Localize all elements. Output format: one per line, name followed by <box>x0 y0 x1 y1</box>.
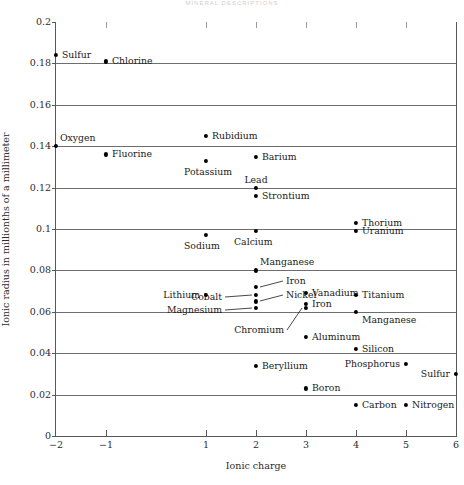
data-point-label: Vanadium <box>312 289 359 298</box>
data-point <box>104 152 108 156</box>
y-tick-mark <box>52 105 56 106</box>
data-point-label: Iron <box>312 299 332 308</box>
data-point <box>254 154 258 158</box>
y-tick-mark <box>52 270 56 271</box>
y-tick-mark <box>52 395 56 396</box>
y-tick-label: 0.1 <box>36 224 51 234</box>
data-point <box>254 186 258 190</box>
x-tick-mark <box>306 430 307 436</box>
data-point-label: Boron <box>312 384 340 393</box>
data-point-label: Sodium <box>184 241 220 250</box>
x-tick-mark-top <box>106 22 107 28</box>
x-tick-mark <box>106 430 107 436</box>
y-tick-mark <box>52 312 56 313</box>
y-tick-mark <box>52 63 56 64</box>
y-tick-mark <box>52 188 56 189</box>
x-tick-label: −2 <box>49 440 63 450</box>
data-point-label: Potassium <box>184 167 232 176</box>
data-point-label: Oxygen <box>60 133 96 142</box>
y-tick-label: 0.08 <box>30 266 51 276</box>
data-point-label: Nitrogen <box>412 400 454 409</box>
scatter-chart-figure: 00.020.040.060.080.10.120.140.160.180.2−… <box>0 0 464 485</box>
data-point-label: Rubidium <box>212 131 258 140</box>
y-tick-mark <box>52 229 56 230</box>
x-tick-mark <box>256 430 257 436</box>
x-tick-mark <box>206 430 207 436</box>
data-point <box>304 335 308 339</box>
data-point <box>254 299 258 303</box>
x-tick-label: 6 <box>453 440 459 450</box>
y-tick-label: 0.02 <box>30 390 51 400</box>
data-point-label: Calcium <box>234 237 273 246</box>
x-tick-mark-top <box>206 22 207 28</box>
data-point <box>204 159 208 163</box>
data-point <box>254 364 258 368</box>
y-tick-label: 0.16 <box>30 100 51 110</box>
y-tick-mark <box>52 22 56 23</box>
x-axis-title: Ionic charge <box>55 460 457 471</box>
y-tick-label: 0.12 <box>30 183 51 193</box>
data-point <box>354 403 358 407</box>
data-point-label: Aluminum <box>312 332 360 341</box>
y-gridline <box>56 146 456 147</box>
x-tick-mark <box>356 430 357 436</box>
data-point-label: Manganese <box>362 315 416 324</box>
y-tick-label: 0.06 <box>30 307 51 317</box>
data-point-label: Chromium <box>234 325 284 334</box>
x-tick-label: −1 <box>99 440 113 450</box>
data-point <box>354 347 358 351</box>
data-point <box>254 306 258 310</box>
data-point-label: Carbon <box>362 400 397 409</box>
y-tick-label: 0.04 <box>30 348 51 358</box>
label-leader-line <box>258 293 285 303</box>
data-point <box>454 372 458 376</box>
data-point-label: Beryllium <box>262 361 308 370</box>
data-point-label: Phosphorus <box>345 359 400 368</box>
data-point-label: Iron <box>286 276 306 285</box>
y-axis-title: Ionic radius in millionths of a millimet… <box>0 22 14 437</box>
data-point-label: Fluorine <box>112 150 152 159</box>
data-point <box>404 403 408 407</box>
x-tick-mark-top <box>356 22 357 28</box>
data-point-label: Uranium <box>362 226 404 235</box>
label-leader-line <box>258 279 285 289</box>
x-tick-mark-top <box>256 22 257 28</box>
data-point <box>254 194 258 198</box>
data-point-label: Strontium <box>262 191 310 200</box>
data-point <box>254 229 258 233</box>
data-point <box>204 134 208 138</box>
y-tick-label: 0.18 <box>30 59 51 69</box>
data-point <box>354 221 358 225</box>
x-tick-mark <box>406 430 407 436</box>
label-leader-line <box>285 306 304 332</box>
x-tick-mark-top <box>306 22 307 28</box>
y-gridline <box>56 312 456 313</box>
x-tick-label: 3 <box>303 440 309 450</box>
data-point-label: Silicon <box>362 344 394 353</box>
data-point-label: Titanium <box>362 291 404 300</box>
y-gridline <box>56 353 456 354</box>
data-point-label: Barium <box>262 152 297 161</box>
y-gridline <box>56 395 456 396</box>
data-point-label: Lithium <box>163 291 200 300</box>
data-point <box>304 306 308 310</box>
data-point <box>404 361 408 365</box>
label-leader-line <box>223 306 254 312</box>
data-point <box>54 144 58 148</box>
data-point <box>204 233 208 237</box>
data-point <box>54 53 58 57</box>
plot-area: 00.020.040.060.080.10.120.140.160.180.2−… <box>55 22 457 437</box>
data-point-label: Magnesium <box>167 305 222 314</box>
data-point <box>304 386 308 390</box>
y-tick-label: 0.14 <box>30 141 51 151</box>
x-tick-mark-top <box>406 22 407 28</box>
data-point-label: Lead <box>244 174 267 183</box>
data-point <box>254 268 258 272</box>
y-tick-label: 0.2 <box>36 17 51 27</box>
data-point <box>254 285 258 289</box>
x-tick-label: 5 <box>403 440 409 450</box>
x-tick-label: 1 <box>203 440 209 450</box>
data-point <box>254 293 258 297</box>
data-point <box>354 229 358 233</box>
data-point <box>354 310 358 314</box>
